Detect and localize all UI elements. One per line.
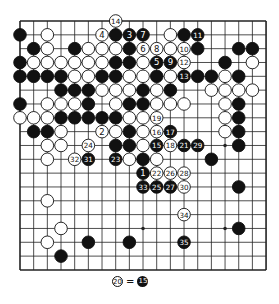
move-number: 30: [179, 183, 189, 192]
black-stone: [232, 125, 245, 138]
move-number: 11: [193, 31, 202, 40]
white-stone-19: 19: [150, 112, 163, 125]
move-number: 4: [99, 30, 104, 40]
move-number: 21: [179, 141, 188, 150]
move-number: 28: [179, 169, 189, 178]
white-stone: [178, 98, 191, 111]
white-stone: [96, 56, 109, 69]
white-stone: [41, 98, 54, 111]
black-stone-7: 7: [137, 29, 150, 42]
white-stone: [82, 56, 95, 69]
white-stone: [41, 56, 54, 69]
move-number: 5: [154, 57, 159, 67]
move-number: 26: [166, 169, 176, 178]
black-stone-17: 17: [164, 125, 177, 138]
move-number: 33: [138, 183, 147, 192]
black-stone: [191, 42, 204, 55]
white-stone: [137, 139, 150, 152]
black-stone-5: 5: [150, 56, 163, 69]
black-stone: [14, 98, 27, 111]
white-stone-32: 32: [68, 153, 81, 166]
move-number: 3: [127, 30, 132, 40]
move-number: 23: [111, 155, 120, 164]
black-stone-21: 21: [178, 139, 191, 152]
black-stone: [96, 70, 109, 83]
white-stone: [137, 70, 150, 83]
black-stone: [232, 222, 245, 235]
black-stone: [219, 56, 232, 69]
white-stone-34: 34: [178, 208, 191, 221]
move-number: 8: [154, 44, 159, 54]
black-stone: [14, 56, 27, 69]
black-stone: [164, 84, 177, 97]
white-stone: [164, 29, 177, 42]
black-stone: [232, 98, 245, 111]
black-stone: [82, 236, 95, 249]
black-stone-3: 3: [123, 29, 136, 42]
black-stone-27: 27: [164, 181, 177, 194]
move-note: 20 = 15: [112, 276, 148, 287]
move-number: 27: [166, 183, 175, 192]
black-stone: [109, 70, 122, 83]
black-stone: [109, 139, 122, 152]
white-stone: [219, 98, 232, 111]
white-stone: [219, 125, 232, 138]
black-stone-23: 23: [109, 153, 122, 166]
move-number: 16: [152, 128, 162, 137]
white-stone: [123, 84, 136, 97]
black-stone: [123, 139, 136, 152]
white-stone: [41, 194, 54, 207]
black-stone: [137, 98, 150, 111]
black-stone: [27, 125, 40, 138]
white-stone: [41, 42, 54, 55]
black-stone: [150, 70, 163, 83]
white-stone: [109, 98, 122, 111]
white-stone-18: 18: [164, 139, 177, 152]
white-stone: [164, 98, 177, 111]
black-stone: [68, 112, 81, 125]
white-stone: [27, 56, 40, 69]
star-point: [141, 227, 145, 231]
move-number: 31: [84, 155, 93, 164]
black-stone: [191, 70, 204, 83]
white-stone: [246, 56, 259, 69]
white-stone: [55, 222, 68, 235]
black-stone: [137, 84, 150, 97]
move-number: 6: [140, 44, 145, 54]
white-stone-30: 30: [178, 181, 191, 194]
black-stone: [109, 56, 122, 69]
black-stone: [41, 125, 54, 138]
white-stone: [41, 139, 54, 152]
black-stone-35: 35: [178, 236, 191, 249]
move-number: 22: [152, 169, 161, 178]
white-stone: [246, 84, 259, 97]
black-stone-15-icon: 15: [137, 276, 148, 287]
white-stone-10: 10: [178, 42, 191, 55]
black-stone: [96, 112, 109, 125]
move-number: 7: [140, 30, 145, 40]
white-stone: [109, 125, 122, 138]
white-stone: [150, 84, 163, 97]
white-stone: [68, 98, 81, 111]
move-number: 13: [179, 72, 188, 81]
white-stone-4: 4: [96, 29, 109, 42]
white-stone: [232, 84, 245, 97]
white-stone-8: 8: [150, 42, 163, 55]
white-stone: [41, 236, 54, 249]
move-number: 1: [140, 168, 145, 178]
black-stone: [232, 139, 245, 152]
move-number: 25: [152, 183, 161, 192]
black-stone: [68, 42, 81, 55]
star-point: [223, 227, 227, 231]
move-number: 29: [193, 141, 203, 150]
black-stone: [41, 70, 54, 83]
white-stone-2: 2: [96, 125, 109, 138]
white-stone-24: 24: [82, 139, 95, 152]
white-stone: [219, 84, 232, 97]
white-stone: [164, 70, 177, 83]
white-stone: [150, 153, 163, 166]
move-number: 17: [166, 128, 175, 137]
white-stone-26: 26: [164, 167, 177, 180]
black-stone: [55, 84, 68, 97]
black-stone: [27, 42, 40, 55]
